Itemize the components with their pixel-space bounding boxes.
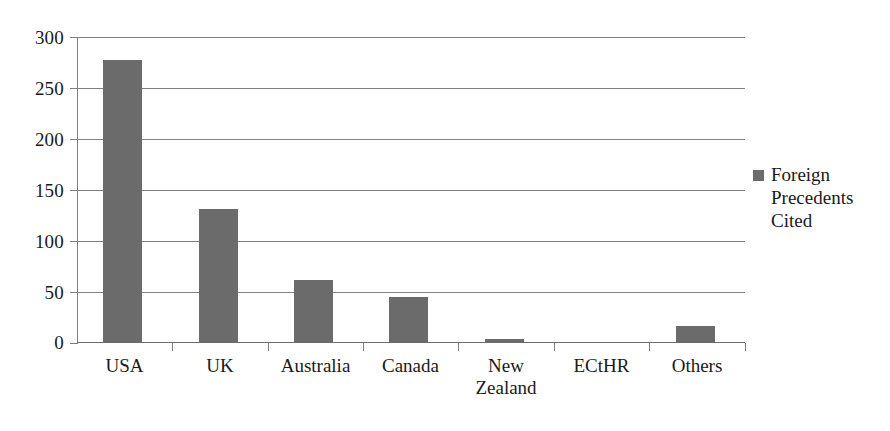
y-tick-label-250: 250	[2, 79, 64, 98]
y-tick-mark-150	[70, 190, 77, 191]
legend-entry-label-line1: Foreign	[771, 163, 890, 186]
x-tick-mark-5	[554, 343, 555, 351]
gridline-300	[77, 37, 745, 38]
x-axis-label-uk-line1: UK	[172, 355, 268, 377]
x-axis-label-new-zealand-line2: Zealand	[458, 377, 554, 399]
legend-entry-label-line3: Cited	[771, 209, 890, 232]
bar-others	[676, 326, 715, 343]
x-tick-mark-7	[745, 343, 746, 351]
x-axis-label-australia-line1: Australia	[268, 355, 363, 377]
y-tick-label-50: 50	[2, 283, 64, 302]
x-axis-label-usa: USA	[77, 355, 172, 377]
x-axis-label-ecthr: ECtHR	[554, 355, 649, 377]
y-tick-mark-300	[70, 37, 77, 38]
x-axis-label-others-line1: Others	[649, 355, 745, 377]
x-axis-label-usa-line1: USA	[77, 355, 172, 377]
bar-australia	[294, 280, 333, 343]
gridline-100	[77, 241, 745, 242]
y-tick-mark-50	[70, 292, 77, 293]
y-tick-mark-0	[70, 343, 77, 344]
y-tick-label-300: 300	[2, 28, 64, 47]
legend-entry-label: Foreign Precedents Cited	[771, 163, 890, 232]
x-axis-label-canada: Canada	[363, 355, 458, 377]
y-tick-mark-100	[70, 241, 77, 242]
bar-ecthr	[580, 342, 619, 343]
bar-chart-figure: 300 250 200 150 100 50 0	[0, 0, 890, 431]
gridline-200	[77, 139, 745, 140]
y-tick-label-200: 200	[2, 130, 64, 149]
x-tick-mark-6	[649, 343, 650, 351]
x-tick-mark-2	[268, 343, 269, 351]
y-tick-label-150: 150	[2, 181, 64, 200]
x-tick-mark-4	[458, 343, 459, 351]
x-axis-label-others: Others	[649, 355, 745, 377]
legend-color-swatch-icon	[753, 170, 764, 181]
legend-entry-label-line2: Precedents	[771, 186, 890, 209]
bar-canada	[389, 297, 428, 343]
x-axis-label-canada-line1: Canada	[363, 355, 458, 377]
x-axis-label-new-zealand-line1: New	[458, 355, 554, 377]
x-axis-label-new-zealand: New Zealand	[458, 355, 554, 399]
y-tick-mark-250	[70, 88, 77, 89]
bar-uk	[199, 209, 238, 343]
gridline-250	[77, 88, 745, 89]
y-axis-tick-labels: 300 250 200 150 100 50 0	[0, 0, 64, 431]
x-axis-label-australia: Australia	[268, 355, 363, 377]
bar-new-zealand	[485, 339, 524, 343]
chart-legend: Foreign Precedents Cited	[753, 163, 890, 232]
x-tick-mark-1	[172, 343, 173, 351]
x-axis-label-ecthr-line1: ECtHR	[554, 355, 649, 377]
bar-usa	[103, 60, 142, 343]
gridline-50	[77, 292, 745, 293]
gridline-150	[77, 190, 745, 191]
y-tick-mark-200	[70, 139, 77, 140]
y-tick-label-0: 0	[2, 333, 64, 352]
x-axis-label-uk: UK	[172, 355, 268, 377]
y-tick-label-100: 100	[2, 232, 64, 251]
plot-area	[77, 37, 745, 343]
x-tick-mark-3	[363, 343, 364, 351]
